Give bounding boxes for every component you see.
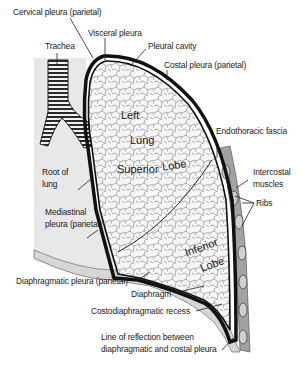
label-line-of-reflection-2: diaphragmatic and costal pleura <box>101 343 217 354</box>
label-lung: lung <box>42 178 57 189</box>
label-intercostal: Intercostal <box>253 166 290 177</box>
label-trachea: Trachea <box>45 40 75 51</box>
label-visceral-pleura: Visceral pleura <box>88 27 142 38</box>
label-mediastinal: Mediastinal <box>45 206 86 217</box>
lung-text-lung: Lung <box>130 134 154 146</box>
label-costal-pleura: Costal pleura (parietal) <box>164 59 246 70</box>
lung-text-left: Left <box>121 109 139 121</box>
lung-text-superior: Superior <box>117 163 159 175</box>
label-endothoracic-fascia: Endothoracic fascia <box>216 125 287 136</box>
pleura-diagram: Cervical pleura (parietal) Visceral pleu… <box>0 0 303 368</box>
label-ribs: Ribs <box>256 197 272 208</box>
label-cervical-pleura: Cervical pleura (parietal) <box>13 6 102 17</box>
label-diaphragmatic-pleura: Diaphragmatic pleura (parietal) <box>16 275 128 286</box>
label-muscles: muscles <box>253 178 283 189</box>
label-pleural-cavity: Pleural cavity <box>148 40 196 51</box>
label-line-of-reflection-1: Line of reflection between <box>101 331 194 342</box>
label-diaphragm: Diaphragm <box>131 288 171 299</box>
label-costodiaphragmatic-recess: Costodiaphragmatic recess <box>91 305 190 316</box>
label-mediastinal-parietal: pleura (parietal) <box>45 218 102 229</box>
label-root-of: Root of <box>42 166 68 177</box>
